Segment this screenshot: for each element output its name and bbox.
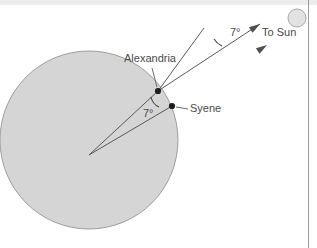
arrow-alexandria-ray-icon [249,24,260,33]
alexandria-label: Alexandria [124,52,177,64]
diagram-canvas: Alexandria Syene To Sun 7° 7° [0,0,317,248]
sun-ray-angle-label: 7° [230,26,241,38]
earth-circle [0,51,178,229]
arrow-syene-ray-icon [256,45,267,54]
syene-leader-line [176,107,188,109]
to-sun-label: To Sun [262,26,296,38]
right-edge-rule [308,0,309,248]
earth-center-angle-label: 7° [143,107,154,119]
syene-point-marker [169,103,175,109]
sun-circle [288,9,306,27]
eratosthenes-diagram: Alexandria Syene To Sun 7° 7° [0,0,317,248]
syene-label: Syene [190,102,221,114]
sun-ray-angle-arc [214,39,222,46]
alexandria-point-marker [155,88,161,94]
